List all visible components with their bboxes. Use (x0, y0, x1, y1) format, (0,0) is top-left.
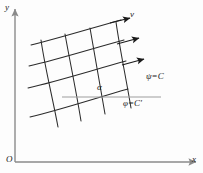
y-axis-label: y (5, 3, 9, 12)
axes-group (15, 9, 196, 162)
psi-curve-4 (30, 89, 128, 117)
origin-label: O (6, 155, 13, 164)
psi-curve-1 (31, 20, 121, 45)
direction-arrow-top (110, 18, 130, 23)
psi-curve-3 (28, 61, 126, 88)
psi-family-label: ψ=C (146, 72, 164, 81)
vector-label: v (130, 10, 134, 19)
figure-canvas: y x O v ψ=C φ=C' α (0, 0, 203, 173)
phi-family-label: φ=C' (123, 99, 142, 108)
direction-arrow-bottom (122, 59, 144, 65)
x-axis-label: x (192, 155, 196, 164)
phi-curve-family (41, 22, 131, 127)
direction-arrows (110, 18, 144, 65)
angle-alpha-label: α (97, 83, 102, 92)
